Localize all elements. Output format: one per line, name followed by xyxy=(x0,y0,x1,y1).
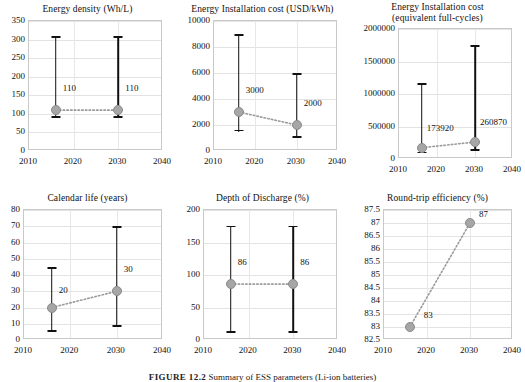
plot-area: 173920260870 xyxy=(398,28,512,158)
error-cap-lower xyxy=(114,116,123,118)
data-point-label: 87 xyxy=(479,210,488,219)
y-axis-tick-label: 8000 xyxy=(192,42,210,51)
data-point-label: 30 xyxy=(124,265,133,274)
gridline xyxy=(204,308,336,309)
plot-wrap: 1101100501001502002503003502010202020302… xyxy=(0,0,175,189)
data-point-marker[interactable] xyxy=(288,279,298,289)
data-point-label: 260870 xyxy=(480,118,507,127)
x-axis-tick-label: 2010 xyxy=(14,346,32,355)
data-point-marker[interactable] xyxy=(51,105,61,115)
y-axis-tick-label: 70 xyxy=(11,221,20,230)
plot-area: 110110 xyxy=(28,20,162,150)
data-point-marker[interactable] xyxy=(405,322,415,332)
gridline xyxy=(29,95,161,96)
y-axis-tick-label: 10000 xyxy=(188,16,211,25)
plot-area: 30002000 xyxy=(213,20,337,150)
gridline xyxy=(384,327,511,328)
y-axis-tick-label: 82.5 xyxy=(364,335,380,344)
y-axis-tick-label: 50 xyxy=(11,253,20,262)
data-point-marker[interactable] xyxy=(465,218,475,228)
y-axis-tick-label: 60 xyxy=(11,237,20,246)
plot-wrap: 2030010203040506070802010202020302040 xyxy=(0,189,175,378)
error-cap-lower xyxy=(47,330,56,332)
y-axis-tick-label: 0 xyxy=(206,146,211,155)
gridline xyxy=(204,210,336,211)
x-axis-tick-label: 2020 xyxy=(427,165,445,174)
vertical-gridline xyxy=(437,29,438,157)
y-axis-tick-label: 4000 xyxy=(192,94,210,103)
vertical-gridline xyxy=(470,210,471,338)
data-point-marker[interactable] xyxy=(470,137,480,147)
caption-text: Summary of ESS parameters (Li-ion batter… xyxy=(208,372,376,382)
y-axis-tick-label: 83.5 xyxy=(364,309,380,318)
data-point-label: 2000 xyxy=(304,99,322,108)
gridline xyxy=(384,301,511,302)
gridline xyxy=(24,275,161,276)
error-cap-lower xyxy=(112,325,121,327)
data-point-label: 110 xyxy=(125,84,138,93)
x-axis-tick-label: 2010 xyxy=(19,157,37,166)
gridline xyxy=(384,223,511,224)
y-axis-tick-label: 2000000 xyxy=(364,24,396,33)
gridline xyxy=(24,324,161,325)
gridline xyxy=(24,210,161,211)
data-point-marker[interactable] xyxy=(112,286,122,296)
data-point-marker[interactable] xyxy=(113,105,123,115)
gridline xyxy=(384,236,511,237)
plot-area: 2030 xyxy=(23,209,162,339)
data-point-marker[interactable] xyxy=(292,120,302,130)
gridline xyxy=(24,291,161,292)
y-axis-tick-label: 1500000 xyxy=(364,56,396,65)
data-point-label: 86 xyxy=(238,258,247,267)
gridline xyxy=(29,132,161,133)
x-axis-tick-label: 2030 xyxy=(460,346,478,355)
error-bar xyxy=(116,226,118,327)
x-axis-tick-label: 2020 xyxy=(245,157,263,166)
gridline xyxy=(384,210,511,211)
caption-label: FIGURE 12.2 xyxy=(149,372,206,382)
y-axis-tick-label: 0 xyxy=(21,146,26,155)
gridline xyxy=(399,62,511,63)
data-point-marker[interactable] xyxy=(47,303,57,313)
gridline xyxy=(384,262,511,263)
error-cap-lower xyxy=(234,130,243,132)
x-axis-tick-label: 2040 xyxy=(153,346,171,355)
chart-panel-6: Round-trip efficiency (%)838782.58383.58… xyxy=(350,189,525,378)
y-axis-tick-label: 87.5 xyxy=(364,205,380,214)
gridline xyxy=(204,243,336,244)
chart-panel-2: Energy Installation cost (USD/kWh)300020… xyxy=(175,0,350,189)
gridline xyxy=(204,275,336,276)
y-axis-tick-label: 85 xyxy=(371,270,380,279)
y-axis-tick-label: 500000 xyxy=(368,121,395,130)
x-axis-tick-label: 2010 xyxy=(389,165,407,174)
error-cap-upper xyxy=(417,83,426,85)
x-axis-tick-label: 2010 xyxy=(374,346,392,355)
y-axis-tick-label: 50 xyxy=(16,127,25,136)
gridline xyxy=(29,114,161,115)
y-axis-tick-label: 150 xyxy=(187,237,201,246)
gridline xyxy=(24,259,161,260)
x-axis-tick-label: 2030 xyxy=(107,346,125,355)
chart-panel-3: Energy Installation cost(equivalent full… xyxy=(350,0,525,189)
y-axis-tick-label: 2000 xyxy=(192,120,210,129)
data-point-label: 110 xyxy=(63,84,76,93)
gridline xyxy=(214,125,336,126)
error-cap-lower xyxy=(289,331,298,333)
x-axis-tick-label: 2040 xyxy=(503,165,521,174)
error-cap-upper xyxy=(292,73,301,75)
gridline xyxy=(24,243,161,244)
y-axis-tick-label: 0 xyxy=(196,335,201,344)
x-axis-tick-label: 2040 xyxy=(328,346,346,355)
error-cap-lower xyxy=(51,116,60,118)
gridline xyxy=(24,226,161,227)
y-axis-tick-label: 6000 xyxy=(192,68,210,77)
plot-area: 8387 xyxy=(383,209,512,339)
data-point-marker[interactable] xyxy=(417,143,427,153)
error-cap-upper xyxy=(114,36,123,38)
gridline xyxy=(399,29,511,30)
data-point-marker[interactable] xyxy=(234,107,244,117)
y-axis-tick-label: 300 xyxy=(12,34,26,43)
x-axis-tick-label: 2030 xyxy=(287,157,305,166)
y-axis-tick-label: 0 xyxy=(16,335,21,344)
data-point-marker[interactable] xyxy=(226,279,236,289)
